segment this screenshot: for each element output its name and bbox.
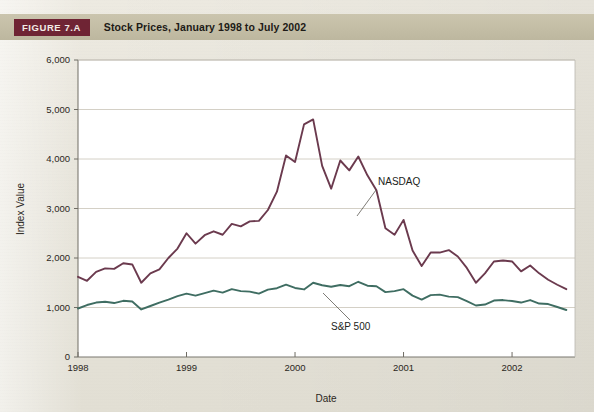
line-chart: 01,0002,0003,0004,0005,0006,000 19981999… bbox=[0, 40, 594, 412]
series-label-s-p-500: S&P 500 bbox=[331, 321, 371, 332]
figure-title: Stock Prices, January 1998 to July 2002 bbox=[104, 21, 306, 33]
y-tick-label: 4,000 bbox=[46, 153, 70, 164]
y-axis-ticks: 01,0002,0003,0004,0005,0006,000 bbox=[46, 54, 78, 362]
x-tick-label: 1998 bbox=[67, 362, 88, 373]
x-tick-label: 2002 bbox=[501, 362, 522, 373]
y-axis-title: Index Value bbox=[15, 183, 26, 236]
y-tick-label: 2,000 bbox=[46, 252, 70, 263]
x-tick-label: 2000 bbox=[284, 362, 305, 373]
x-axis-title: Date bbox=[315, 393, 337, 404]
x-tick-label: 2001 bbox=[393, 362, 414, 373]
x-tick-label: 1999 bbox=[176, 362, 197, 373]
figure-number-tag: FIGURE 7.A bbox=[14, 19, 90, 36]
y-tick-label: 0 bbox=[65, 351, 70, 362]
y-tick-label: 1,000 bbox=[46, 302, 70, 313]
y-tick-label: 5,000 bbox=[46, 104, 70, 115]
figure-container: FIGURE 7.A Stock Prices, January 1998 to… bbox=[0, 0, 594, 412]
y-tick-label: 3,000 bbox=[46, 203, 70, 214]
chart-area: 01,0002,0003,0004,0005,0006,000 19981999… bbox=[0, 40, 594, 412]
y-tick-label: 6,000 bbox=[46, 54, 70, 65]
figure-header-band: FIGURE 7.A Stock Prices, January 1998 to… bbox=[0, 14, 594, 40]
series-label-nasdaq: NASDAQ bbox=[378, 176, 420, 187]
